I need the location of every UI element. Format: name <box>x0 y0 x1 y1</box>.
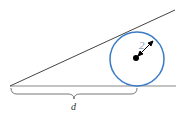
distance-label: d <box>71 101 77 112</box>
inclined-line <box>10 10 175 86</box>
diagram-canvas: 2 d <box>0 0 183 118</box>
distance-brace <box>11 88 137 99</box>
radius-label: 2 <box>139 39 145 51</box>
